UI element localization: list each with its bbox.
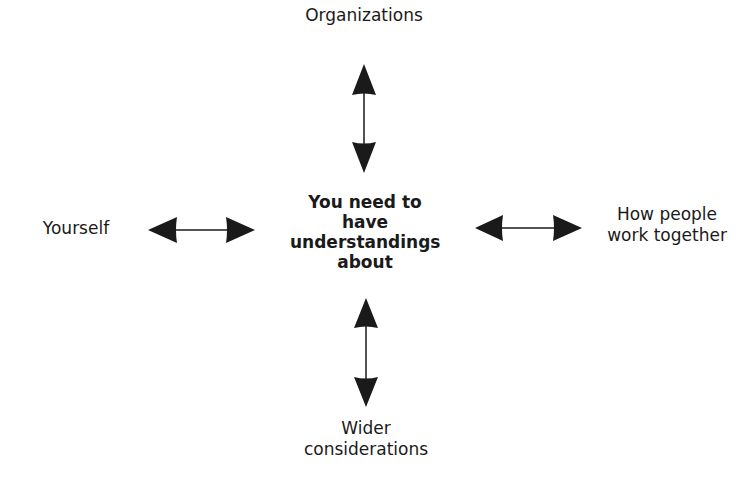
center-concept: You need to have understandings about bbox=[290, 192, 440, 272]
node-how-people-work-together: How people work together bbox=[592, 204, 742, 246]
node-yourself: Yourself bbox=[26, 218, 126, 239]
double-arrow-left-icon bbox=[148, 217, 255, 243]
node-yourself-label: Yourself bbox=[43, 218, 109, 238]
center-line-4: about bbox=[290, 252, 440, 272]
double-arrow-top-icon bbox=[352, 64, 376, 173]
center-line-3: understandings bbox=[290, 232, 440, 252]
node-bottom-line-2: considerations bbox=[291, 439, 441, 460]
node-organizations-label: Organizations bbox=[305, 5, 423, 25]
node-organizations: Organizations bbox=[294, 5, 434, 26]
node-wider-considerations: Wider considerations bbox=[291, 418, 441, 460]
center-line-1: You need to bbox=[290, 192, 440, 212]
double-arrow-right-icon bbox=[475, 215, 582, 241]
double-arrow-bottom-icon bbox=[354, 298, 378, 407]
center-line-2: have bbox=[290, 212, 440, 232]
node-right-line-2: work together bbox=[592, 225, 742, 246]
node-right-line-1: How people bbox=[592, 204, 742, 225]
node-bottom-line-1: Wider bbox=[291, 418, 441, 439]
